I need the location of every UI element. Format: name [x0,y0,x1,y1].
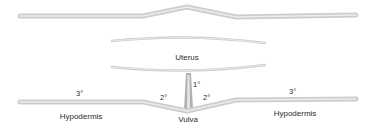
vulval-induction-diagram: Uterus 1° 2° 2° 3° 3° Hypodermis Vulva H… [0,0,371,134]
secondary-fate-right-label: 2° [203,93,210,102]
primary-fate-label: 1° [193,80,200,89]
hypodermis-right-label: Hypodermis [274,109,317,118]
top-layer [20,7,356,17]
uterus-label: Uterus [175,53,199,62]
tertiary-fate-right-label: 3° [289,87,296,96]
anchor-cell [184,73,193,112]
vulva-label: Vulva [178,115,198,124]
secondary-fate-left-label: 2° [160,93,167,102]
hypodermis-left-label: Hypodermis [60,112,103,121]
tertiary-fate-left-label: 3° [76,89,83,98]
